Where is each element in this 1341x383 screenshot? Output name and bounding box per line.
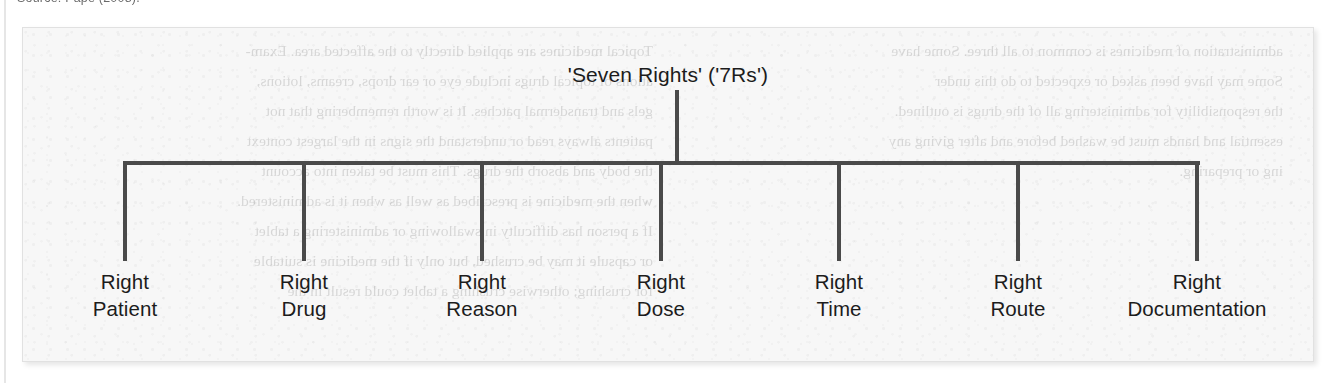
leaf-label-line-2: Drug [204,295,404,322]
leaf-label-line-1: Right [918,268,1118,295]
leaf-node-patient: RightPatient [25,268,225,322]
root-stem-line [675,90,679,163]
leaf-node-time: RightTime [739,268,939,322]
leaf-drop-line [1016,161,1020,261]
leaf-label-line-1: Right [382,268,582,295]
leaf-drop-line [302,161,306,261]
leaf-node-route: RightRoute [918,268,1118,322]
page-gutter-rule [4,0,6,383]
leaf-drop-line [1195,161,1199,261]
leaf-node-dose: RightDose [561,268,761,322]
leaf-label-line-1: Right [1097,268,1297,295]
leaf-label-line-1: Right [204,268,404,295]
leaf-drop-line [480,161,484,261]
leaf-drop-line [837,161,841,261]
leaf-label-line-1: Right [739,268,939,295]
leaf-drop-line [123,161,127,261]
leaf-label-line-1: Right [25,268,225,295]
figure-panel: administration of medicines is common to… [22,27,1314,362]
leaf-label-line-1: Right [561,268,761,295]
leaf-label-line-2: Documentation [1097,295,1297,322]
leaf-label-line-2: Dose [561,295,761,322]
leaf-label-line-2: Route [918,295,1118,322]
source-caption: Source: Pape (2008). [17,0,140,5]
leaf-label-line-2: Time [739,295,939,322]
leaf-label-line-2: Reason [382,295,582,322]
leaf-label-line-2: Patient [25,295,225,322]
leaf-drop-line [659,161,663,261]
leaf-node-documentation: RightDocumentation [1097,268,1297,322]
leaf-node-drug: RightDrug [204,268,404,322]
leaf-node-reason: RightReason [382,268,582,322]
